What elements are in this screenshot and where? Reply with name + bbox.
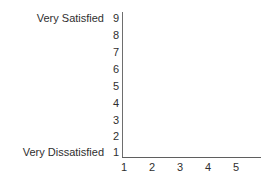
y-tick-label-9: 9: [79, 13, 119, 24]
x-tick-label-3: 3: [170, 162, 190, 173]
y-tick-label-8: 8: [79, 30, 119, 41]
x-axis-line: [122, 157, 261, 158]
y-tick-label-3: 3: [79, 115, 119, 126]
x-tick-label-4: 4: [198, 162, 218, 173]
y-tick-label-4: 4: [79, 98, 119, 109]
x-tick-label-1: 1: [114, 162, 134, 173]
x-tick-label-5: 5: [226, 162, 246, 173]
y-tick-label-2: 2: [79, 131, 119, 142]
y-axis-line: [122, 12, 123, 158]
chart-canvas: Very Satisfied Very Dissatisfied 9 8 7 6…: [0, 0, 271, 184]
y-tick-label-5: 5: [79, 81, 119, 92]
y-tick-label-1: 1: [79, 147, 119, 158]
x-tick-label-2: 2: [142, 162, 162, 173]
y-tick-label-6: 6: [79, 64, 119, 75]
y-tick-label-7: 7: [79, 47, 119, 58]
